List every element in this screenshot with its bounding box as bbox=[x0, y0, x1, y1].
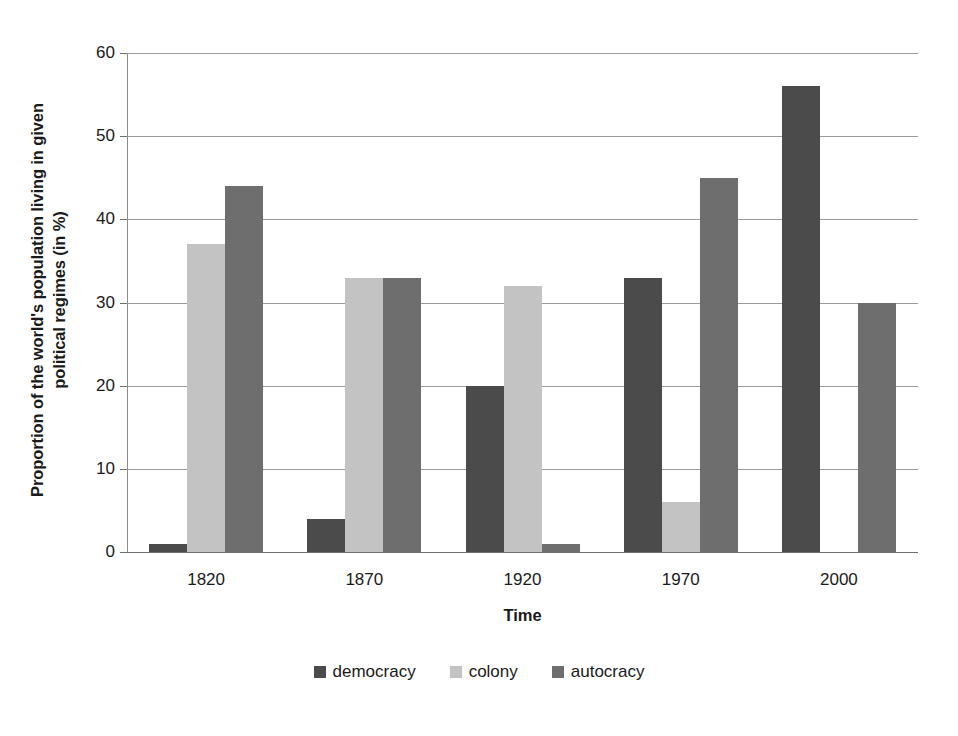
x-axis-tick-label-2000: 2000 bbox=[820, 570, 858, 590]
bars-layer bbox=[127, 53, 918, 552]
y-axis-tick-label: 0 bbox=[106, 542, 115, 562]
x-axis-tick-label-1870: 1870 bbox=[345, 570, 383, 590]
y-axis-tick bbox=[120, 386, 127, 387]
bar-democracy-1970 bbox=[624, 278, 662, 552]
y-axis-tick-label: 10 bbox=[96, 459, 115, 479]
bar-chart-figure: Proportion of the world's population liv… bbox=[0, 0, 958, 736]
bar-democracy-2000 bbox=[782, 86, 820, 552]
y-axis-tick bbox=[120, 552, 127, 553]
y-axis-title-line-2: political regimes (in %) bbox=[48, 40, 70, 560]
bar-democracy-1870 bbox=[307, 519, 345, 552]
y-axis-tick bbox=[120, 53, 127, 54]
bar-autocracy-2000 bbox=[858, 303, 896, 553]
legend-item-colony[interactable]: colony bbox=[450, 662, 518, 682]
legend-swatch-icon-colony bbox=[450, 666, 462, 678]
y-axis-tick-label: 20 bbox=[96, 376, 115, 396]
bar-colony-1820 bbox=[187, 244, 225, 552]
x-axis-title: Time bbox=[127, 606, 918, 625]
x-axis-tick-label-1920: 1920 bbox=[504, 570, 542, 590]
legend-swatch-icon-autocracy bbox=[552, 666, 564, 678]
bar-autocracy-1820 bbox=[225, 186, 263, 552]
y-axis-tick-label: 50 bbox=[96, 126, 115, 146]
x-axis-tick-label-1820: 1820 bbox=[187, 570, 225, 590]
gridline bbox=[127, 552, 918, 553]
bar-democracy-1820 bbox=[149, 544, 187, 552]
bar-democracy-1920 bbox=[466, 386, 504, 552]
x-axis-tick-label-1970: 1970 bbox=[662, 570, 700, 590]
y-axis-tick-label: 30 bbox=[96, 293, 115, 313]
bar-autocracy-1870 bbox=[383, 278, 421, 552]
bar-colony-1920 bbox=[504, 286, 542, 552]
y-axis-tick bbox=[120, 219, 127, 220]
bar-colony-1870 bbox=[345, 278, 383, 552]
y-axis-title-line-1: Proportion of the world's population liv… bbox=[26, 40, 48, 560]
legend-label-colony: colony bbox=[469, 662, 518, 682]
y-axis-tick-label: 60 bbox=[96, 43, 115, 63]
chart-legend: democracycolonyautocracy bbox=[0, 662, 958, 682]
bar-autocracy-1920 bbox=[542, 544, 580, 552]
legend-item-democracy[interactable]: democracy bbox=[314, 662, 416, 682]
y-axis-tick-label: 40 bbox=[96, 209, 115, 229]
bar-autocracy-1970 bbox=[700, 178, 738, 552]
bar-colony-1970 bbox=[662, 502, 700, 552]
y-axis-tick bbox=[120, 303, 127, 304]
legend-swatch-icon-democracy bbox=[314, 666, 326, 678]
plot-area: 6050403020100 18201870192019702000 bbox=[127, 53, 918, 552]
y-axis-tick bbox=[120, 136, 127, 137]
legend-item-autocracy[interactable]: autocracy bbox=[552, 662, 645, 682]
y-axis-title: Proportion of the world's population liv… bbox=[26, 40, 70, 560]
y-axis-tick bbox=[120, 469, 127, 470]
legend-label-democracy: democracy bbox=[333, 662, 416, 682]
legend-label-autocracy: autocracy bbox=[571, 662, 645, 682]
